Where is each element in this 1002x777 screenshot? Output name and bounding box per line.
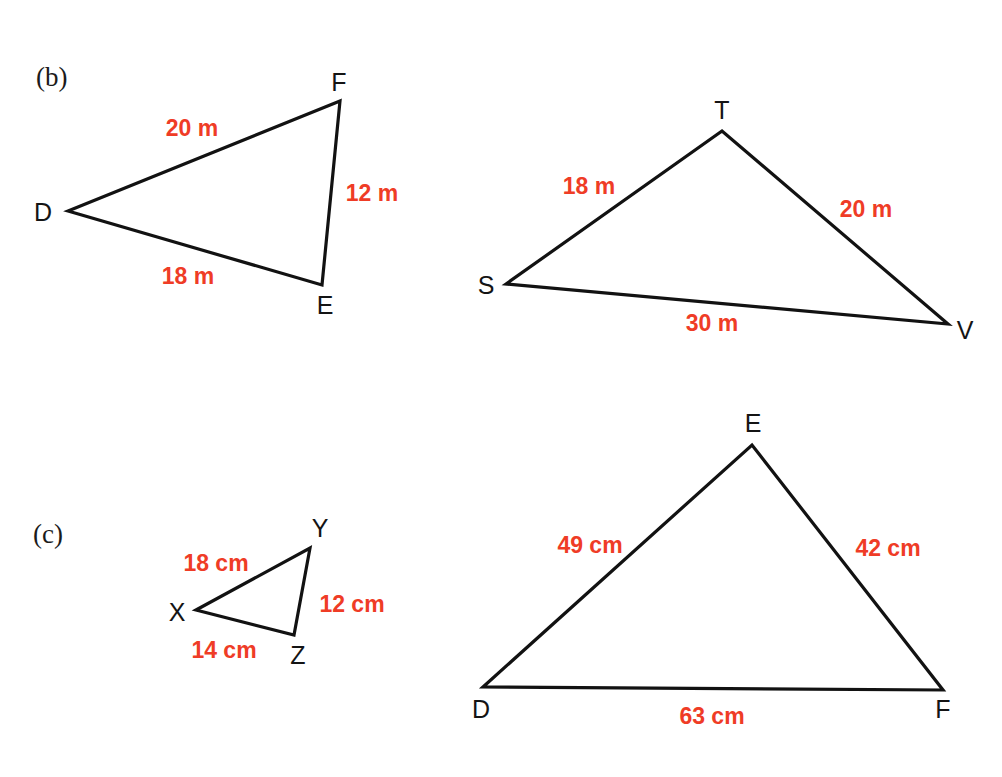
triangle-edges-layer <box>68 101 948 690</box>
vertex-label-def-e: E <box>317 293 334 318</box>
side-length-def-ef: 42 cm <box>855 537 920 560</box>
side-length-stv-sv: 30 m <box>686 312 738 335</box>
side-length-def-df: 63 cm <box>679 705 744 728</box>
triangle-stv-edges <box>506 131 948 324</box>
side-length-def-fe: 12 m <box>346 182 398 205</box>
vertex-label-xyz-z: Z <box>290 643 305 668</box>
part-label-c: (c) <box>33 521 63 548</box>
side-length-def-df: 20 m <box>166 117 218 140</box>
side-length-def-de: 18 m <box>162 265 214 288</box>
vertex-label-xyz-x: X <box>169 600 186 625</box>
part-label-b: (b) <box>36 64 67 91</box>
side-length-xyz-xz: 14 cm <box>191 639 256 662</box>
side-length-xyz-yz: 12 cm <box>319 593 384 616</box>
vertex-label-def-f: F <box>935 697 950 722</box>
vertex-label-stv-v: V <box>957 318 974 343</box>
vertex-label-def-d: D <box>34 200 52 225</box>
side-length-def-de: 49 cm <box>557 534 622 557</box>
triangles-canvas <box>0 0 1002 777</box>
triangle-outline <box>483 445 943 690</box>
vertex-label-def-d: D <box>472 697 490 722</box>
side-length-stv-tv: 20 m <box>840 198 892 221</box>
vertex-label-def-e: E <box>745 411 762 436</box>
vertex-label-def-f: F <box>331 70 346 95</box>
side-length-stv-st: 18 m <box>563 175 615 198</box>
triangle-outline <box>506 131 948 324</box>
vertex-label-stv-t: T <box>714 98 729 123</box>
worksheet-page: DEF20 m12 m18 mSTV18 m20 m30 mXYZ18 cm12… <box>0 0 1002 777</box>
vertex-label-xyz-y: Y <box>312 516 329 541</box>
vertex-label-stv-s: S <box>478 273 495 298</box>
triangle-def-edges <box>483 445 943 690</box>
side-length-xyz-xy: 18 cm <box>183 552 248 575</box>
